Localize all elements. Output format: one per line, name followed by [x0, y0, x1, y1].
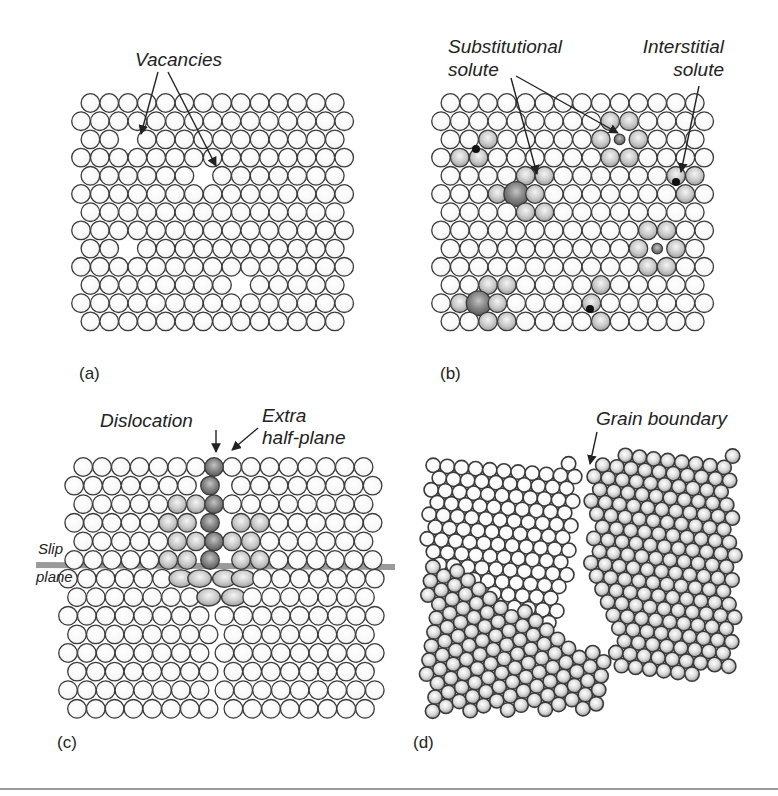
host-atom [290, 569, 309, 588]
host-atom [573, 203, 592, 222]
vacancies-label: Vacancies [135, 49, 222, 70]
host-atom [138, 239, 157, 258]
host-atom [629, 203, 648, 222]
host-atom [601, 185, 620, 204]
host-atom [460, 94, 479, 113]
grain-atom-shaded [671, 665, 685, 679]
host-atom [676, 258, 695, 277]
host-atom [250, 203, 269, 222]
host-atom [648, 130, 667, 149]
interstitial-label-line1: Interstitial [643, 36, 725, 57]
host-atom [366, 569, 385, 588]
strained-atom [657, 221, 676, 240]
host-atom [326, 94, 345, 113]
host-atom [59, 681, 78, 700]
host-atom [153, 607, 172, 626]
host-atom [87, 700, 106, 719]
host-atom [498, 239, 517, 258]
host-atom [279, 185, 298, 204]
host-atom [269, 203, 288, 222]
host-atom [166, 148, 185, 167]
host-atom [307, 514, 326, 533]
host-atom [592, 94, 611, 113]
strained-atom [232, 551, 251, 570]
host-atom [469, 185, 488, 204]
host-atom [366, 644, 385, 663]
host-atom [103, 476, 122, 495]
host-atom [479, 167, 498, 186]
host-atom [143, 625, 162, 644]
host-atom [130, 495, 149, 514]
host-atom [347, 681, 366, 700]
host-atom [336, 495, 355, 514]
extra-half-plane-atom [201, 476, 220, 495]
host-atom [535, 276, 554, 295]
host-atom [545, 112, 564, 131]
host-atom [354, 458, 373, 477]
host-atom [124, 700, 143, 719]
host-atom [68, 700, 87, 719]
host-atom [345, 514, 364, 533]
host-atom [175, 167, 194, 186]
host-atom [479, 203, 498, 222]
host-atom [124, 625, 143, 644]
extra-half-plane-label-line2: half-plane [262, 427, 345, 448]
host-atom [140, 514, 159, 533]
host-atom [281, 700, 300, 719]
host-atom [93, 532, 112, 551]
host-atom [318, 588, 337, 607]
host-atom [545, 294, 564, 313]
host-atom [84, 551, 103, 570]
host-atom [363, 514, 382, 533]
crystal-defects-figure: Vacancies (a) Substitutional solute Inte… [0, 0, 778, 796]
strained-atom [535, 167, 554, 186]
host-atom [100, 312, 119, 331]
strained-atom [222, 588, 246, 606]
extra-half-plane-atom [201, 514, 220, 533]
host-atom [441, 312, 460, 331]
host-atom [299, 700, 318, 719]
host-atom [162, 700, 181, 719]
host-atom [316, 258, 335, 277]
host-atom [288, 94, 307, 113]
host-atom [298, 532, 317, 551]
strained-atom [242, 532, 261, 551]
host-atom [326, 514, 345, 533]
host-atom [241, 112, 260, 131]
panel-tag-d: (d) [413, 733, 434, 752]
host-atom [297, 112, 316, 131]
host-atom [498, 203, 517, 222]
host-atom [610, 167, 629, 186]
host-atom [241, 294, 260, 313]
host-atom [639, 294, 658, 313]
substitutional-label-line1: Substitutional [448, 36, 563, 57]
host-atom [105, 588, 124, 607]
host-atom [269, 476, 288, 495]
host-atom [74, 495, 93, 514]
host-atom [335, 112, 354, 131]
host-atom [451, 185, 470, 204]
host-atom [134, 569, 153, 588]
host-atom [175, 312, 194, 331]
host-atom [213, 130, 232, 149]
host-atom [337, 588, 356, 607]
host-atom [535, 130, 554, 149]
host-atom [194, 276, 213, 295]
host-atom [143, 588, 162, 607]
strained-atom [535, 203, 554, 222]
host-atom [563, 148, 582, 167]
extra-half-plane-label-line1: Extra [262, 405, 306, 426]
host-atom [639, 112, 658, 131]
host-atom [243, 700, 262, 719]
grain-atom-shaded [601, 595, 615, 609]
strained-atom [187, 495, 206, 514]
host-atom [119, 312, 138, 331]
host-atom [328, 569, 347, 588]
host-atom [356, 625, 375, 644]
strained-atom [488, 294, 507, 313]
host-atom [78, 607, 97, 626]
grain-atom-shaded [476, 699, 490, 713]
host-atom [159, 476, 178, 495]
host-atom [130, 532, 149, 551]
host-atom [243, 662, 262, 681]
